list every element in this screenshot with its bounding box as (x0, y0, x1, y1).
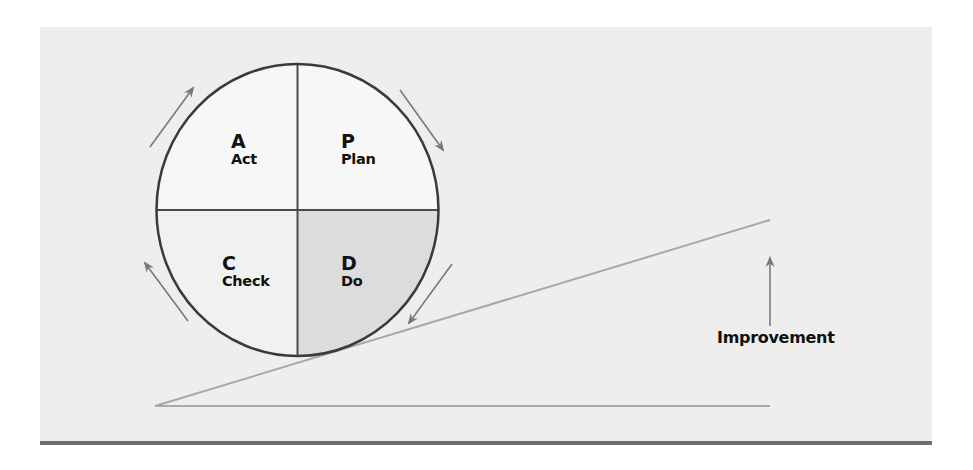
quadrant-act (150, 60, 298, 210)
act-letter: A (231, 132, 246, 151)
improvement-label: Improvement (717, 330, 835, 346)
pdca-diagram (0, 0, 973, 470)
do-label: Do (341, 274, 362, 289)
do-letter: D (341, 254, 357, 273)
check-letter: C (222, 254, 236, 273)
plan-label: Plan (341, 152, 376, 167)
quadrant-do (298, 210, 448, 360)
check-label: Check (222, 274, 270, 289)
act-label: Act (231, 152, 257, 167)
plan-letter: P (341, 132, 355, 151)
quadrant-plan (298, 60, 448, 210)
